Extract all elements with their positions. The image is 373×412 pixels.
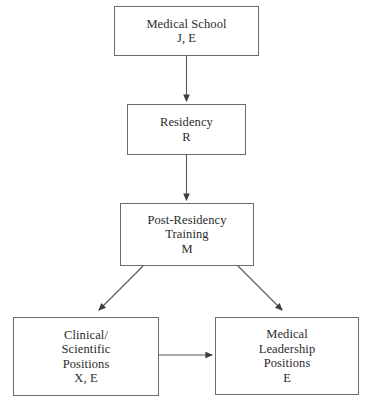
edge-post-residency-to-leadership: [238, 266, 282, 310]
node-medical-school-line-2: J, E: [177, 31, 196, 46]
node-leadership-line-2: Leadership: [259, 342, 316, 357]
node-clinical-line-4: X, E: [74, 371, 97, 386]
node-post-residency-line-2: Training: [165, 227, 208, 242]
node-post-residency-line-3: M: [181, 242, 192, 257]
node-residency-line-2: R: [182, 130, 190, 145]
node-leadership-line-4: E: [283, 371, 291, 386]
node-post-residency-training[interactable]: Post-Residency Training M: [120, 203, 254, 266]
node-leadership-line-1: Medical: [266, 327, 308, 342]
node-clinical-line-3: Positions: [63, 357, 110, 372]
flowchart-canvas: Medical School J, E Residency R Post-Res…: [0, 0, 373, 412]
node-clinical-line-1: Clinical/: [64, 328, 108, 343]
node-medical-school[interactable]: Medical School J, E: [114, 6, 259, 56]
node-medical-school-line-1: Medical School: [146, 17, 226, 32]
node-medical-leadership-positions[interactable]: Medical Leadership Positions E: [215, 317, 359, 395]
node-clinical-scientific-positions[interactable]: Clinical/ Scientific Positions X, E: [13, 317, 159, 396]
node-leadership-line-3: Positions: [264, 356, 311, 371]
node-residency-line-1: Residency: [160, 115, 213, 130]
edge-post-residency-to-clinical: [99, 266, 143, 310]
node-clinical-line-2: Scientific: [62, 342, 111, 357]
node-post-residency-line-1: Post-Residency: [147, 213, 226, 228]
node-residency[interactable]: Residency R: [127, 104, 246, 155]
